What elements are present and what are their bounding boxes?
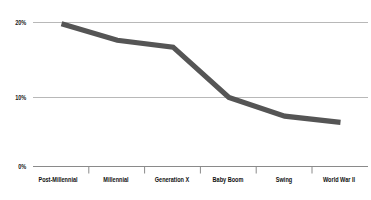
chart-container: 20% 10% 0% Post-Millennial Millennial Ge… [0,0,371,200]
chart-plot-area [0,0,371,200]
x-axis-label-millennial: Millennial [90,175,142,184]
data-series-line [62,24,341,123]
x-axis-ticks [89,167,312,174]
y-axis-label-10: 10% [4,94,26,101]
x-axis-label-generation-x: Generation X [146,175,198,184]
gridlines [33,23,368,98]
y-axis-label-0: 0% [4,163,26,170]
y-axis-label-20: 20% [4,19,26,26]
x-axis-label-baby-boom: Baby Boom [202,175,254,184]
x-axis-label-post-millennial: Post-Millennial [32,175,84,184]
x-axis-label-world-war-ii: World War II [313,175,365,184]
x-axis-label-swing: Swing [258,175,310,184]
